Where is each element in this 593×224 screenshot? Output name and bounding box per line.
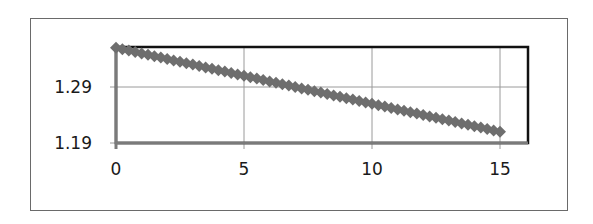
x-tick-label: 5: [239, 159, 250, 179]
y-tick-label: 1.29: [54, 77, 92, 97]
y-axis-tick-labels: 1.191.29: [54, 77, 92, 153]
x-tick-label: 10: [361, 159, 383, 179]
x-tick-label: 0: [111, 159, 122, 179]
data-series: [110, 42, 506, 138]
y-tick-label: 1.19: [54, 133, 92, 153]
scatter-chart: 051015 1.191.29: [0, 0, 593, 224]
x-tick-label: 15: [489, 159, 511, 179]
x-axis-tick-labels: 051015: [111, 159, 511, 179]
